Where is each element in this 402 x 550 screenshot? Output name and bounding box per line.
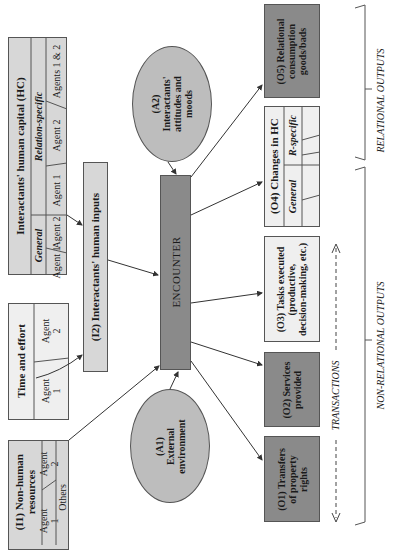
output-o2-box: (O2) Services provided [264,352,320,427]
output-o2-label: (O2) Services provided [281,361,303,418]
time-effort-agent-2: Agent 2 [34,303,69,358]
non-human-title: (I1) Non-human resources [8,440,42,545]
hc-cell-gen-agent-1: Agent 1 [46,250,67,275]
external-environment-ellipse: (A1) External environment [130,389,210,503]
output-o5-label: (O5) Relational consumption goods/bads [276,18,309,84]
encounter-label: ENCOUNTER [169,237,181,308]
output-o1-box: (O1) Transfers of property rights [264,436,320,522]
output-o4-title: (O4) Changes in HC [264,106,284,227]
hc-cell-text: Agent 2 [51,217,62,249]
relational-outputs-text: RELATIONAL OUTPUTS [375,48,386,152]
non-relational-outputs-label: NON-RELATIONAL OUTPUTS [372,220,388,470]
non-human-title-text: (I1) Non-human resources [13,454,37,530]
non-human-cell-text: Others [57,484,68,511]
hc-cell-text: Agent 1 [51,247,62,279]
hc-relation-specific-header: Relation-specific [31,37,46,215]
output-o4-general-label: General [288,179,299,212]
output-o5-box: (O5) Relational consumption goods/bads [264,4,320,98]
hc-title: Interactants' human capital (HC) [8,37,31,275]
encounter-box: ENCOUNTER [160,175,191,370]
hc-title-text: Interactants' human capital (HC) [13,77,25,234]
output-o4-general: General [284,165,302,227]
hc-cell-rs-agent-1: Agent 1 [46,165,67,215]
output-o3-box: (O3) Tasks executed (productive, decisio… [264,236,320,342]
non-human-others: Others [56,460,69,535]
time-effort-cell-text: Agent 2 [40,318,62,342]
hc-general-text: General [33,228,44,261]
external-environment-label: (A1) External environment [153,419,186,473]
time-effort-title: Time and effort [8,303,34,420]
attitudes-moods-ellipse: (A2) Interactants' attitudes and moods [132,46,212,162]
human-inputs-box: (I2) Interactants' human inputs [83,162,108,372]
transactions-text: TRANSACTIONS [330,360,341,430]
non-relational-outputs-text: NON-RELATIONAL OUTPUTS [375,281,386,409]
hc-cell-gen-agent-2: Agent 2 [46,215,67,250]
hc-cell-rs-agent-2: Agent 2 [46,105,67,165]
hc-cell-agents-1-2: Agents 1 & 2 [46,37,67,105]
human-inputs-label: (I2) Interactants' human inputs [89,193,101,341]
attitudes-moods-label: (A2) Interactants' attitudes and moods [150,76,194,132]
transactions-label: TRANSACTIONS [328,355,342,435]
output-o1-label: (O1) Transfers of property rights [276,448,309,511]
output-o4-r-specific-label: R-specific [288,115,299,156]
non-human-agent-1: Agent 1 [42,497,56,545]
time-effort-title-text: Time and effort [15,325,27,399]
output-o4-label: (O4) Changes in HC [268,119,280,215]
hc-cell-text: Agent 2 [51,119,62,151]
non-human-agent-2: Agent 2 [42,440,56,488]
relational-outputs-label: RELATIONAL OUTPUTS [372,30,388,170]
hc-general-header: General [31,215,46,275]
time-effort-cell-text: Agent 1 [40,379,62,403]
time-effort-agent-1: Agent 1 [34,362,69,420]
hc-cell-text: Agent 1 [51,174,62,206]
output-o4-r-specific: R-specific [284,106,302,165]
hc-cell-text: Agents 1 & 2 [51,44,62,98]
hc-relation-specific-text: Relation-specific [33,91,44,160]
output-o3-label: (O3) Tasks executed (productive, decisio… [276,242,309,335]
